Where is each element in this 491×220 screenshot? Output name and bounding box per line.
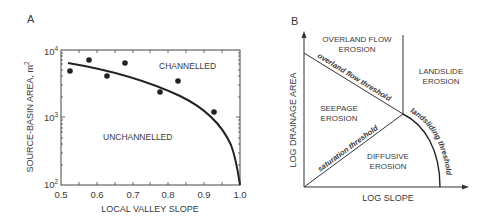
saturation-threshold-line	[304, 114, 403, 187]
x-tick-label: 0.5	[54, 189, 67, 200]
panel-a-x-tick-labels: 0.5 0.6 0.7 0.8 0.9 1.0	[54, 189, 246, 200]
panel-a-label: A	[27, 13, 35, 25]
y-tick-label: 104	[44, 45, 59, 57]
landslide-erosion-label-2: EROSION	[423, 77, 460, 86]
panel-a-x-axis-label: LOCAL VALLEY SLOPE	[101, 204, 198, 214]
diffusive-erosion-label: DIFFUSIVE	[367, 152, 409, 161]
data-point	[157, 89, 163, 95]
overland-flow-erosion-label-2: EROSION	[339, 45, 376, 54]
x-tick-label: 0.6	[90, 189, 103, 200]
panel-b-x-axis-label: LOG SLOPE	[362, 193, 414, 203]
data-point	[86, 57, 92, 63]
overland-flow-threshold-label: overland flow threshold	[316, 51, 393, 103]
x-tick-label: 1.0	[233, 189, 246, 200]
x-tick-label: 0.8	[161, 189, 174, 200]
data-point	[122, 60, 128, 66]
channelled-label: CHANNELLED	[159, 61, 216, 71]
panel-b-y-axis-label: LOG DRAINAGE AREA	[288, 72, 298, 167]
seepage-erosion-label: SEEPAGE	[320, 104, 358, 113]
data-point	[175, 78, 181, 84]
threshold-curve	[68, 63, 240, 185]
diffusive-erosion-label-2: EROSION	[370, 162, 407, 171]
y-axis-arrow-icon	[302, 31, 307, 38]
landslide-erosion-label: LANDSLIDE	[419, 67, 463, 76]
data-point	[67, 68, 73, 74]
x-tick-label: 0.9	[197, 189, 210, 200]
landsliding-threshold-label: landsliding threshold	[409, 106, 453, 176]
x-axis-arrow-icon	[462, 185, 469, 190]
overland-flow-erosion-label: OVERLAND FLOW	[322, 35, 392, 44]
data-point	[211, 109, 217, 115]
panel-b-label: B	[291, 15, 298, 27]
figure: A 0.5 0.6 0.7 0.	[0, 0, 491, 220]
panel-a-y-axis-label: SOURCE-BASIN AREA, m2	[23, 61, 35, 173]
seepage-erosion-label-2: EROSION	[321, 114, 358, 123]
x-tick-label: 0.7	[126, 189, 139, 200]
unchannelled-label: UNCHANNELLED	[103, 132, 172, 142]
data-point	[104, 73, 110, 79]
y-tick-label: 103	[44, 111, 59, 123]
panel-a-y-tick-labels: 104 103 102	[44, 45, 59, 190]
